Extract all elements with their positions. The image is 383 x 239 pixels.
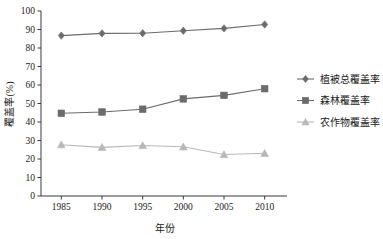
marker-square [261, 85, 268, 92]
legend-item-2[interactable]: 森林覆盖率 [297, 94, 370, 106]
y-tick-label: 50 [26, 99, 36, 109]
series-line-2 [61, 89, 264, 114]
chart-legend: 植被总覆盖率森林覆盖率农作物覆盖率 [297, 73, 380, 128]
series-1 [58, 21, 267, 40]
series-line-1 [61, 25, 264, 36]
chart-container: 0102030405060708090100 19851990199520002… [0, 0, 383, 239]
x-axis-tick-labels: 198519901995200020052010 [52, 202, 275, 212]
x-axis-title: 年份 [155, 222, 175, 234]
y-tick-label: 30 [26, 136, 36, 146]
y-tick-label: 40 [26, 117, 36, 127]
y-tick-label: 0 [30, 191, 35, 201]
marker-square [180, 96, 187, 103]
legend-label-2: 森林覆盖率 [320, 94, 370, 106]
data-series-group [58, 21, 269, 158]
x-tick-label: 1990 [93, 202, 112, 212]
x-tick-label: 2005 [215, 202, 234, 212]
line-chart-plot: 0102030405060708090100 19851990199520002… [0, 0, 383, 239]
y-tick-label: 20 [26, 154, 36, 164]
y-tick-label: 60 [26, 80, 36, 90]
y-axis-tick-labels: 0102030405060708090100 [21, 6, 36, 201]
axes [38, 11, 288, 200]
series-2 [58, 85, 268, 116]
x-tick-label: 1985 [52, 202, 71, 212]
legend-label-1: 植被总覆盖率 [320, 73, 380, 85]
marker-diamond [221, 25, 227, 32]
y-tick-label: 100 [21, 6, 36, 16]
marker-diamond [262, 21, 268, 28]
y-tick-label: 10 [26, 173, 36, 183]
marker-diamond [140, 30, 146, 37]
legend-item-1[interactable]: 植被总覆盖率 [297, 73, 380, 85]
series-3 [58, 141, 269, 158]
marker-diamond [58, 32, 64, 39]
y-tick-label: 90 [26, 25, 36, 35]
marker-square [139, 106, 146, 113]
x-tick-label: 2010 [255, 202, 274, 212]
x-tick-label: 2000 [174, 202, 193, 212]
y-axis-title: 覆盖率(%) [3, 82, 16, 127]
marker-square [302, 97, 308, 103]
marker-diamond [303, 75, 309, 82]
legend-item-3[interactable]: 农作物覆盖率 [297, 116, 380, 128]
marker-diamond [180, 27, 186, 34]
series-line-3 [61, 145, 264, 155]
x-tick-label: 1995 [133, 202, 152, 212]
marker-square [221, 92, 228, 99]
marker-diamond [99, 30, 105, 37]
y-tick-label: 70 [26, 62, 36, 72]
marker-square [58, 110, 65, 117]
legend-label-3: 农作物覆盖率 [320, 116, 380, 128]
marker-square [99, 109, 106, 116]
y-tick-label: 80 [26, 43, 36, 53]
